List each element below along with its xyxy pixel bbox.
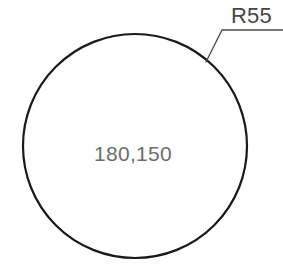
radius-dimension-label: R55	[231, 3, 272, 29]
center-coordinate-label: 180,150	[94, 142, 172, 166]
drawing-canvas: R55 180,150	[0, 0, 283, 272]
drawing-geometry	[0, 0, 283, 272]
leader-line	[206, 30, 283, 62]
